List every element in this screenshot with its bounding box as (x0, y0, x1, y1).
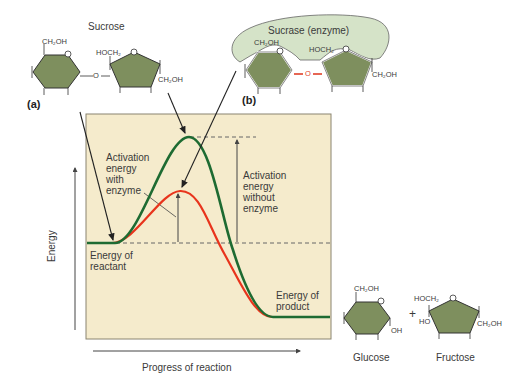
sucrose-link-oxygen: O (93, 72, 99, 80)
sucrose-ch2oh-fructose: CH₂OH (158, 76, 183, 84)
complex-hoch2: HOCH₂ (309, 46, 334, 54)
x-axis-label: Progress of reaction (142, 362, 232, 373)
fructose-name: Fructose (436, 352, 475, 363)
fructose-ho: HO (419, 318, 430, 326)
complex-ch2oh-glucose: CH₂OH (254, 39, 279, 47)
glucose-ch2oh: CH₂OH (354, 285, 379, 293)
y-axis-label: Energy (46, 230, 57, 262)
sucrose-ch2oh-glucose: CH₂OH (42, 38, 67, 46)
glucose-name: Glucose (353, 352, 390, 363)
fructose-ch2oh: CH₂OH (477, 320, 502, 328)
glucose-molecule (344, 292, 390, 340)
panel-b-label: (b) (242, 94, 256, 106)
sucrose-title: Sucrose (88, 21, 125, 32)
glucose-oh: OH (391, 327, 402, 335)
sucrase-enzyme-label: Sucrase (enzyme) (268, 25, 349, 36)
label-energy-product: Energy of product (276, 290, 319, 312)
complex-ch2oh-fructose: CH₂OH (372, 71, 397, 79)
label-energy-reactant: Energy of reactant (90, 250, 133, 272)
label-activation-with-enzyme: Activation energy with enzyme (106, 152, 149, 196)
complex-link-oxygen: O (305, 70, 311, 78)
fructose-hoch2: HOCH₂ (414, 295, 439, 303)
label-activation-without-enzyme: Activation energy without enzyme (243, 170, 286, 214)
sucrose-hoch2: HOCH₂ (96, 49, 121, 57)
panel-a-label: (a) (27, 98, 40, 110)
plus-sign: + (409, 309, 416, 320)
